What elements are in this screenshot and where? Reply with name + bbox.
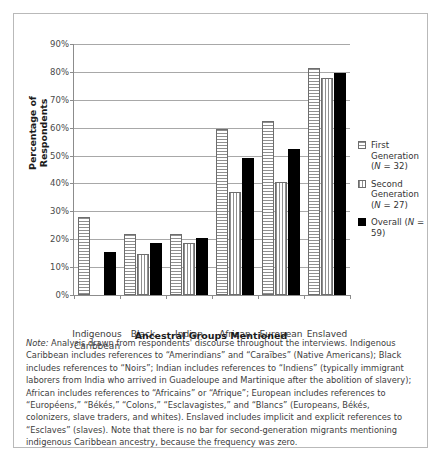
bar [308, 68, 320, 295]
x-axis-tick-mark [166, 295, 167, 299]
legend-label: Second Generation [371, 179, 419, 200]
y-axis-tick-label: 90% [50, 39, 69, 49]
bar-group [78, 44, 116, 295]
bar [288, 149, 300, 295]
y-axis-tick-label: 30% [50, 206, 69, 216]
y-axis-title: Percentage of Respondents [27, 63, 49, 203]
x-axis-tick-mark [350, 295, 351, 299]
bar [170, 234, 182, 295]
bar [216, 129, 228, 295]
y-axis-tick-mark [70, 100, 74, 101]
legend-item: Second Generation(N = 27) [358, 179, 430, 211]
bar [196, 238, 208, 295]
y-axis-tick-label: 70% [50, 95, 69, 105]
y-axis-tick-mark [70, 239, 74, 240]
y-axis-tick-mark [70, 156, 74, 157]
legend-sublabel: (N = 32) [371, 161, 430, 172]
x-axis-tick-mark [304, 295, 305, 299]
plot-area: 0%10%20%30%40%50%60%70%80%90%Indigenous … [73, 44, 350, 296]
horizontal-hatch-swatch [358, 141, 366, 149]
chart-region: Percentage of Respondents 0%10%20%30%40%… [14, 14, 427, 324]
legend-label: Overall (N = 59) [371, 217, 424, 238]
bar-group [124, 44, 162, 295]
figure-frame: Percentage of Respondents 0%10%20%30%40%… [13, 13, 428, 448]
x-axis-tick-mark [258, 295, 259, 299]
legend-label: First Generation [371, 140, 419, 161]
bar-group [170, 44, 208, 295]
y-axis-tick-mark [70, 72, 74, 73]
bar [275, 182, 287, 296]
bar [262, 121, 274, 295]
bar [124, 234, 136, 295]
y-axis-tick-label: 20% [50, 234, 69, 244]
y-axis-tick-label: 10% [50, 262, 69, 272]
y-axis-tick-mark [70, 183, 74, 184]
x-axis-tick-mark [120, 295, 121, 299]
y-axis-tick-mark [70, 267, 74, 268]
y-axis-tick-label: 50% [50, 151, 69, 161]
bar-group [216, 44, 254, 295]
bar [242, 158, 254, 295]
bar [104, 252, 116, 295]
figure-note: Note: Analysis drawn from respondents' d… [26, 337, 416, 449]
x-axis-tick-mark [212, 295, 213, 299]
legend-item: First Generation(N = 32) [358, 140, 430, 172]
vertical-hatch-swatch [358, 180, 366, 188]
bar [334, 73, 346, 295]
bar [78, 217, 90, 295]
bar [137, 254, 149, 295]
chart-legend: First Generation(N = 32)Second Generatio… [358, 140, 430, 245]
y-axis-tick-label: 40% [50, 178, 69, 188]
note-text: Analysis drawn from respondents' discour… [26, 338, 411, 447]
legend-item: Overall (N = 59) [358, 217, 430, 238]
y-axis-tick-label: 0% [56, 290, 70, 300]
legend-sublabel: (N = 27) [371, 200, 430, 211]
y-axis-tick-mark [70, 211, 74, 212]
bar-group [262, 44, 300, 295]
solid-black-swatch [358, 218, 366, 226]
bar [229, 192, 241, 295]
y-axis-tick-label: 60% [50, 123, 69, 133]
bar [150, 243, 162, 295]
x-axis-tick-mark [74, 295, 75, 299]
bar [183, 243, 195, 295]
bar-group [308, 44, 346, 295]
y-axis-tick-mark [70, 44, 74, 45]
y-axis-tick-label: 80% [50, 67, 69, 77]
bar [321, 78, 333, 295]
y-axis-tick-mark [70, 128, 74, 129]
note-label: Note: [26, 338, 48, 348]
